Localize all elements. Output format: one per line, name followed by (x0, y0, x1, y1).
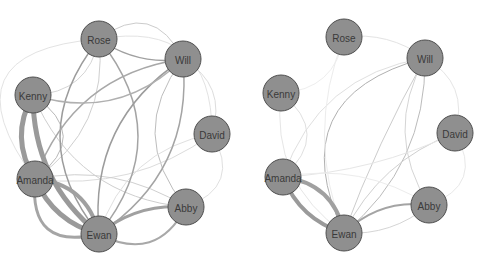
node-rose: Rose (81, 21, 117, 57)
node-label: Ewan (86, 230, 111, 241)
node-rose: Rose (326, 19, 362, 55)
node-ewan: Ewan (326, 215, 362, 251)
edge-will-abby (405, 58, 429, 205)
node-kenny: Kenny (263, 75, 299, 111)
node-abby: Abby (168, 189, 204, 225)
node-david: David (437, 115, 473, 151)
node-label: Amanda (264, 173, 302, 184)
node-ewan: Ewan (81, 216, 117, 252)
edge-rose-ewan (60, 39, 99, 234)
node-amanda: Amanda (264, 159, 302, 195)
node-abby: Abby (411, 187, 447, 223)
node-label: Kenny (19, 91, 47, 102)
node-label: Abby (418, 201, 441, 212)
right-network: RoseWillKennyDavidAmandaAbbyEwan (263, 19, 473, 251)
node-label: Kenny (267, 89, 295, 100)
edge-rose-ewan (99, 39, 138, 234)
network-diagram: RoseWillKennyDavidAmandaAbbyEwan RoseWil… (0, 0, 491, 265)
node-amanda: Amanda (16, 161, 54, 197)
node-label: David (199, 130, 225, 141)
edge-will-abby (155, 59, 186, 207)
node-will: Will (407, 40, 443, 76)
node-david: David (194, 116, 230, 152)
node-label: Amanda (16, 175, 54, 186)
node-kenny: Kenny (15, 77, 51, 113)
node-label: Ewan (331, 229, 356, 240)
node-label: Will (175, 55, 191, 66)
edge-amanda-abby (283, 173, 429, 205)
left-network: RoseWillKennyDavidAmandaAbbyEwan (0, 21, 230, 252)
node-label: Will (417, 54, 433, 65)
node-label: David (442, 129, 468, 140)
node-label: Abby (175, 203, 198, 214)
node-will: Will (165, 41, 201, 77)
node-label: Rose (332, 33, 356, 44)
node-label: Rose (87, 35, 111, 46)
edge-will-kenny (33, 59, 183, 103)
